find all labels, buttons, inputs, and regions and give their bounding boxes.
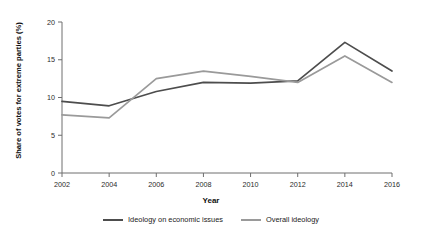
y-tick-label: 0: [51, 169, 55, 178]
x-tick-label: 2016: [384, 180, 400, 189]
legend-item-economic-ideology: Ideology on economic issues: [103, 215, 223, 224]
series-line-overall-ideology: [62, 56, 392, 118]
x-tick-label: 2002: [54, 180, 70, 189]
data-series-group: [62, 42, 392, 118]
legend-label: Ideology on economic issues: [128, 215, 223, 224]
y-tick-label: 10: [47, 93, 55, 102]
y-tick-label: 5: [51, 131, 55, 140]
legend-label: Overall ideology: [266, 215, 319, 224]
x-tick-label: 2014: [337, 180, 353, 189]
y-tick-label: 20: [47, 18, 55, 27]
x-tick-label: 2012: [290, 180, 306, 189]
chart-legend: Ideology on economic issues Overall ideo…: [0, 215, 422, 224]
x-tick-label: 2010: [243, 180, 259, 189]
x-tick-label: 2006: [148, 180, 164, 189]
legend-line-swatch: [241, 219, 261, 221]
x-axis-title: Year: [0, 196, 422, 205]
x-axis-ticks: 20022004200620082010201220142016: [54, 173, 400, 189]
x-tick-label: 2004: [101, 180, 117, 189]
y-tick-label: 15: [47, 55, 55, 64]
legend-line-swatch: [103, 219, 123, 221]
line-chart: 05101520 2002200420062008201020122014201…: [0, 0, 422, 241]
x-tick-label: 2008: [195, 180, 211, 189]
y-axis-ticks: 05101520: [47, 18, 62, 178]
legend-item-overall-ideology: Overall ideology: [241, 215, 319, 224]
